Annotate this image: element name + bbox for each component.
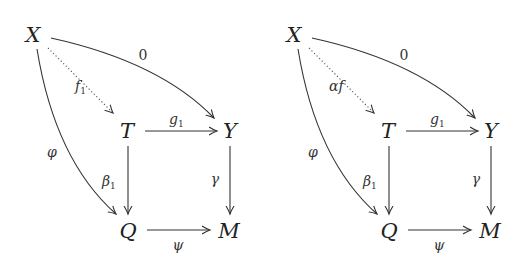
label-gamma: γ [211,171,220,187]
label-zero: 0 [139,47,148,63]
node-m: M [478,219,501,243]
label-f1: f1 [74,78,86,96]
commutative-diagram-right: X T Y Q M 0 αf g1 φ β1 γ ψ [285,23,502,253]
label-alpha-f: αf [329,78,346,94]
node-m: M [217,219,240,243]
node-x: X [24,23,42,47]
node-t: T [381,119,397,143]
label-zero: 0 [400,47,409,63]
dotted-arrow-x-to-t [48,48,113,113]
arrow-x-to-q [37,49,116,214]
arrow-x-to-q [298,49,377,214]
label-psi: ψ [173,237,185,253]
node-x: X [285,23,303,47]
label-beta1: β1 [101,173,116,191]
node-q: Q [380,219,397,243]
commutative-diagram-left: X T Y Q M 0 f1 g1 φ β1 γ ψ [24,23,241,253]
node-q: Q [119,219,136,243]
label-beta1: β1 [362,173,377,191]
label-gamma: γ [472,171,481,187]
node-y: Y [223,119,239,143]
label-phi: φ [308,144,318,160]
label-g1: g1 [169,111,184,129]
node-y: Y [484,119,500,143]
label-g1: g1 [430,111,445,129]
label-psi: ψ [434,237,446,253]
label-phi: φ [47,144,57,160]
diagram-canvas: X T Y Q M 0 f1 g1 φ β1 γ ψ X T Y Q M 0 α… [0,0,525,267]
node-t: T [120,119,136,143]
